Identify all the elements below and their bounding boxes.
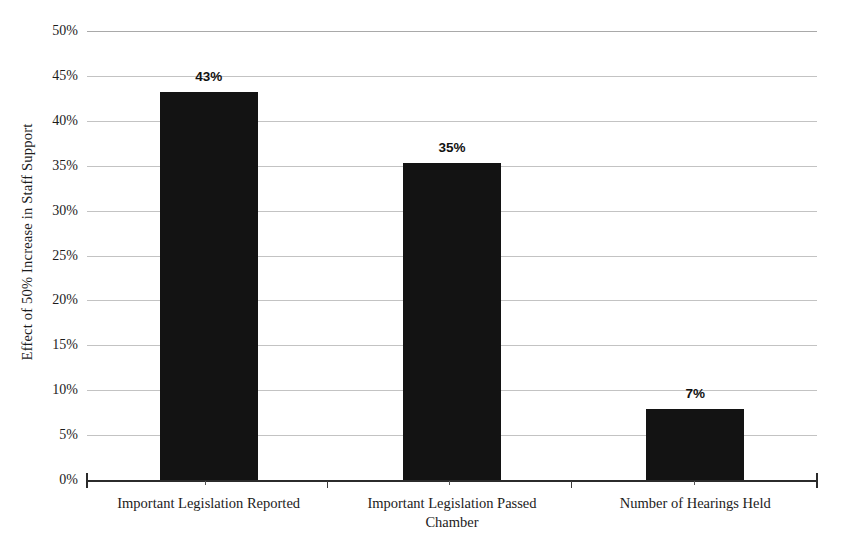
y-tick-label-40%: 40% — [0, 114, 78, 128]
y-tick-label-10%: 10% — [0, 383, 78, 397]
y-axis-tick-labels: 50%45%40%35%30%25%20%15%10%5%0% — [0, 0, 78, 544]
x-axis-category-divider-tick-2 — [571, 481, 572, 488]
x-axis-line — [87, 480, 817, 482]
bar-1[interactable] — [160, 92, 258, 480]
x-axis-start-tick — [86, 473, 88, 488]
bar-value-label-1: 43% — [169, 70, 249, 84]
x-axis-center-tick-3 — [694, 481, 695, 485]
x-axis-center-tick-1 — [205, 481, 206, 485]
x-axis-label-3-line-1: Number of Hearings Held — [574, 494, 817, 513]
plot-area: 43%35%7% — [87, 31, 817, 480]
bar-value-label-2: 35% — [412, 141, 492, 155]
x-axis-label-2-line-1: Important Legislation Passed — [330, 494, 573, 513]
y-tick-label-50%: 50% — [0, 24, 78, 38]
y-tick-label-20%: 20% — [0, 293, 78, 307]
x-axis-center-tick-2 — [449, 481, 450, 485]
x-axis-label-2-line-2: Chamber — [330, 513, 573, 532]
y-tick-label-15%: 15% — [0, 338, 78, 352]
y-tick-label-45%: 45% — [0, 69, 78, 83]
y-tick-label-25%: 25% — [0, 249, 78, 263]
x-axis-end-tick — [816, 473, 818, 488]
gridline-50% — [87, 31, 817, 32]
bar-2[interactable] — [403, 163, 501, 480]
x-axis-label-2: Important Legislation PassedChamber — [330, 494, 573, 532]
y-tick-label-0%: 0% — [0, 473, 78, 487]
bar-3[interactable] — [646, 409, 744, 480]
x-axis-category-divider-tick-1 — [327, 481, 328, 488]
x-axis-label-3: Number of Hearings Held — [574, 494, 817, 513]
y-tick-label-30%: 30% — [0, 204, 78, 218]
y-tick-label-5%: 5% — [0, 428, 78, 442]
y-tick-label-35%: 35% — [0, 159, 78, 173]
bar-chart: Effect of 50% Increase in Staff Support … — [0, 0, 841, 544]
x-axis-label-1: Important Legislation Reported — [87, 494, 330, 513]
bar-value-label-3: 7% — [655, 387, 735, 401]
x-axis-label-1-line-1: Important Legislation Reported — [87, 494, 330, 513]
